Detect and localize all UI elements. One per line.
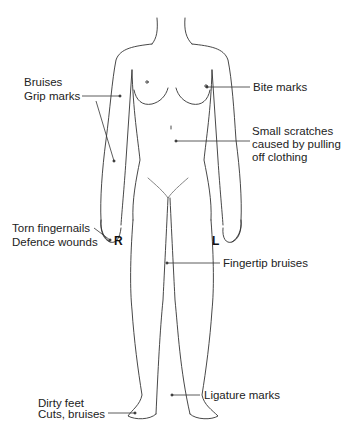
label-ligature-marks: Ligature marks bbox=[204, 388, 280, 402]
label-fingertip-bruises: Fingertip bruises bbox=[223, 256, 308, 270]
label-bruises: Bruises bbox=[24, 75, 62, 89]
side-marker-left: L bbox=[212, 234, 219, 248]
body-outline-figure bbox=[0, 0, 351, 434]
label-small-scratches-1: Small scratches bbox=[252, 124, 333, 138]
label-grip-marks: Grip marks bbox=[24, 89, 80, 103]
label-torn-fingernails: Torn fingernails bbox=[12, 221, 90, 235]
label-defence-wounds: Defence wounds bbox=[12, 235, 98, 249]
label-bite-marks: Bite marks bbox=[253, 80, 307, 94]
label-cuts-bruises: Cuts, bruises bbox=[38, 407, 105, 421]
side-marker-right: R bbox=[114, 234, 123, 248]
label-small-scratches-3: off clothing bbox=[252, 150, 307, 164]
label-small-scratches-2: caused by pulling bbox=[252, 137, 341, 151]
